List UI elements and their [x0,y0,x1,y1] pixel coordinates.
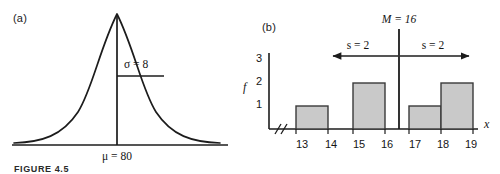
figure-container: (a) σ = 8 μ = 80 (b) [0,0,500,174]
y-tick-label-2: 2 [256,75,262,87]
spread-right-label: s = 2 [422,39,445,51]
x-tick-label-17: 17 [409,138,421,150]
bar-13 [296,106,328,129]
spread-left-text: s = 2 [347,39,370,51]
x-tick-label-14: 14 [325,138,337,150]
y-axis-title: f [243,80,248,94]
spread-right-text: s = 2 [422,39,445,51]
x-tick-label-19: 19 [465,138,477,150]
y-tick-label-1: 1 [256,98,262,110]
spread-left-label: s = 2 [347,39,370,51]
figure-caption: FIGURE 4.5 [14,164,69,174]
y-tick-label-3: 3 [256,52,262,64]
panel-b-histogram: 3 2 1 f x 13 14 15 16 17 18 [0,0,500,174]
median-label: M = 16 [381,13,417,25]
x-tick-label-18: 18 [437,138,449,150]
x-tick-label-15: 15 [353,138,365,150]
bar-15 [353,83,385,129]
x-tick-label-16: 16 [381,138,393,150]
median-label-text: M = 16 [381,13,417,25]
bar-18 [441,83,473,129]
x-tick-label-13: 13 [296,138,308,150]
bar-17 [409,106,441,129]
x-axis-title: x [483,117,490,131]
